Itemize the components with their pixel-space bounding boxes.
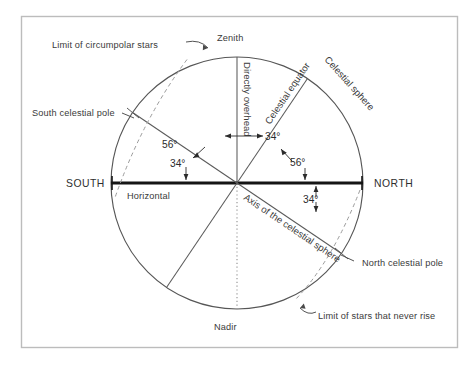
- label-south: SOUTH: [66, 178, 105, 189]
- celestial-sphere-diagram: 34° 56° 34° 56° 34: [0, 0, 475, 367]
- label-north: NORTH: [374, 178, 413, 189]
- label-limit-stars-never-rise: Limit of stars that never rise: [318, 311, 435, 321]
- label-directly-overhead: Directly overhead: [242, 62, 253, 137]
- label-zenith: Zenith: [217, 33, 243, 43]
- angle-label-56-left: 56°: [162, 139, 177, 150]
- angle-label-56-right: 56°: [290, 157, 305, 168]
- label-limit-circumpolar-stars: Limit of circumpolar stars: [52, 40, 158, 50]
- angle-label-34-zenith-equator: 34°: [265, 131, 280, 142]
- label-horizontal: Horizontal: [127, 191, 170, 201]
- label-south-celestial-pole: South celestial pole: [32, 108, 115, 118]
- label-north-celestial-pole: North celestial pole: [362, 258, 443, 268]
- angle-label-34-south: 34°: [170, 158, 185, 169]
- label-nadir: Nadir: [214, 322, 237, 332]
- diagram-canvas: 34° 56° 34° 56° 34: [0, 0, 475, 367]
- angle-label-34-below-horizon: 34°: [303, 194, 318, 205]
